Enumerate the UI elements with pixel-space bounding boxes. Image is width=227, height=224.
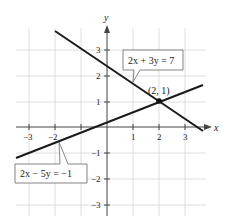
eq1-label: 2x + 3y = 7: [128, 55, 174, 66]
y-tick-label: 3: [96, 45, 101, 55]
y-tick-label: 1: [96, 97, 101, 107]
y-axis-arrow-icon: [104, 25, 110, 33]
x-tick-label: 1: [131, 132, 136, 142]
y-tick-label: 2: [96, 71, 101, 81]
x-tick-label: −2: [48, 132, 58, 142]
y-tick-label: −3: [91, 200, 101, 210]
x-tick-label: 3: [183, 132, 188, 142]
intersection-point: [156, 98, 162, 104]
callout-eq1: 2x + 3y = 7: [123, 50, 183, 82]
y-axis-label: y: [103, 12, 109, 23]
coordinate-plane: x y −3 −2 1 2 3 3 2 1 −1 −2 −3 (2, 1) 2x…: [0, 0, 227, 224]
x-tick-label: 2: [157, 132, 162, 142]
graph-figure: x y −3 −2 1 2 3 3 2 1 −1 −2 −3 (2, 1) 2x…: [0, 0, 227, 224]
x-axis-label: x: [213, 122, 219, 133]
intersection-label: (2, 1): [148, 85, 170, 97]
eq2-label: 2x − 5y = −1: [20, 168, 72, 179]
x-axis-arrow-icon: [204, 124, 212, 130]
line-2x-plus-3y-eq-7: [55, 31, 203, 131]
y-tick-label: −1: [91, 148, 101, 158]
x-tick-label: −3: [23, 132, 33, 142]
line-2x-minus-5y-eq-neg1: [16, 85, 203, 158]
callout-eq2: 2x − 5y = −1: [15, 142, 87, 183]
y-tick-label: −2: [91, 174, 101, 184]
